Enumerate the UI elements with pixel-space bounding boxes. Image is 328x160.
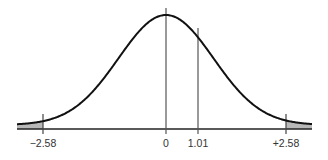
normal-distribution-chart: −2.58 0 1.01 +2.58 bbox=[0, 0, 328, 160]
tick-label-pos-2-58: +2.58 bbox=[273, 137, 300, 149]
normal-curve bbox=[17, 15, 312, 124]
tick-label-neg-2-58: −2.58 bbox=[30, 137, 57, 149]
tick-label-1-01: 1.01 bbox=[188, 137, 209, 149]
tick-label-0: 0 bbox=[163, 137, 169, 149]
